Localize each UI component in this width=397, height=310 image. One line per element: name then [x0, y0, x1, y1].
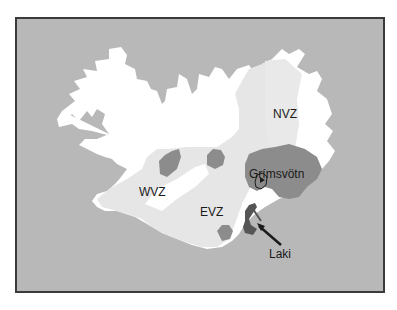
label-evz: EVZ — [200, 206, 223, 218]
label-wvz: WVZ — [139, 186, 166, 198]
label-laki: Laki — [269, 248, 291, 260]
label-grimsvotn: Grímsvötn — [249, 168, 304, 180]
iceland-map — [17, 19, 383, 291]
map-frame: NVZ WVZ EVZ Grímsvötn Laki — [15, 17, 385, 293]
label-nvz: NVZ — [273, 108, 297, 120]
